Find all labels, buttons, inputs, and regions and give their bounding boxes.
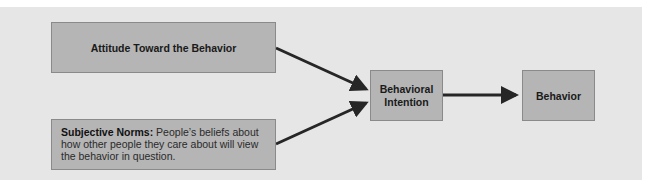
- attitude-label: Attitude Toward the Behavior: [91, 42, 237, 54]
- attitude-node: Attitude Toward the Behavior: [51, 22, 276, 73]
- behavior-label: Behavior: [536, 90, 581, 102]
- intention-label-line2: Intention: [380, 96, 434, 109]
- norms-term: Subjective Norms:: [61, 126, 153, 138]
- intention-label-line1: Behavioral: [380, 83, 434, 96]
- arrow-norms-to-intention: [276, 103, 366, 144]
- arrow-attitude-to-intention: [276, 48, 366, 89]
- behavioral-intention-node: Behavioral Intention: [370, 70, 443, 121]
- behavior-node: Behavior: [522, 70, 595, 121]
- subjective-norms-node: Subjective Norms: People’s beliefs about…: [51, 119, 276, 170]
